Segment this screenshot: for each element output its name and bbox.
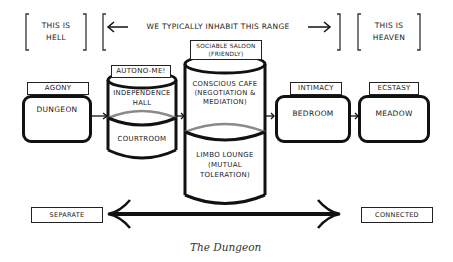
- hell-label-line1: THIS IS: [30, 20, 82, 32]
- range-left-bracket: [103, 14, 106, 50]
- dungeon-room: DUNGEON: [22, 95, 92, 143]
- cylinder-autonomy: [108, 72, 176, 158]
- courtroom-label: COURTROOM: [108, 134, 176, 144]
- connected-label: CONNECTED: [361, 207, 433, 223]
- heaven-right-bracket: [417, 14, 420, 50]
- conscious-cafe-label: CONSCIOUS CAFE (NEGOTIATION & MEDIATION): [187, 80, 263, 107]
- meadow-room: MEADOW: [358, 95, 430, 143]
- limbo-lounge-label: LIMBO LOUNGE (MUTUAL TOLERATION): [187, 150, 263, 180]
- conscious-cafe-line2: (NEGOTIATION &: [187, 89, 263, 98]
- agony-tab: AGONY: [27, 82, 89, 95]
- limbo-lounge-line1: LIMBO LOUNGE: [187, 150, 263, 160]
- conscious-cafe-line3: MEDIATION): [187, 98, 263, 107]
- sociable-saloon-line2: (FRIENDLY): [191, 50, 261, 58]
- cylinder-sociable: [185, 55, 265, 204]
- heaven-label: THIS IS HEAVEN: [362, 20, 416, 44]
- independence-hall-line2: HALL: [108, 98, 176, 108]
- autonomy-tab: AUTONO-ME!: [111, 65, 171, 78]
- bedroom-room: BEDROOM: [275, 95, 351, 143]
- separate-label: SEPARATE: [31, 207, 103, 223]
- limbo-lounge-line3: TOLERATION): [187, 170, 263, 180]
- heaven-label-line1: THIS IS: [362, 20, 416, 32]
- range-label: WE TYPICALLY INHABIT THIS RANGE: [130, 22, 306, 32]
- conscious-cafe-line1: CONSCIOUS CAFE: [187, 80, 263, 89]
- sociable-saloon-tab: SOCIABLE SALOON (FRIENDLY): [190, 40, 262, 60]
- meadow-label: MEADOW: [361, 98, 427, 118]
- ecstasy-tab: ECSTASY: [369, 82, 419, 95]
- hell-label: THIS IS HELL: [30, 20, 82, 44]
- figure-caption: The Dungeon: [190, 241, 261, 253]
- range-right-bracket: [337, 14, 340, 50]
- dungeon-label: DUNGEON: [25, 98, 89, 114]
- bedroom-label: BEDROOM: [278, 98, 348, 118]
- heaven-label-line2: HEAVEN: [362, 32, 416, 44]
- limbo-lounge-line2: (MUTUAL: [187, 160, 263, 170]
- hell-right-bracket: [83, 14, 86, 50]
- sociable-saloon-line1: SOCIABLE SALOON: [191, 42, 261, 50]
- intimacy-tab: INTIMACY: [290, 82, 342, 95]
- hell-left-bracket: [26, 14, 29, 50]
- hell-label-line2: HELL: [30, 32, 82, 44]
- independence-hall-line1: INDEPENDENCE: [108, 88, 176, 98]
- independence-hall-label: INDEPENDENCE HALL: [108, 88, 176, 108]
- heaven-left-bracket: [358, 14, 361, 50]
